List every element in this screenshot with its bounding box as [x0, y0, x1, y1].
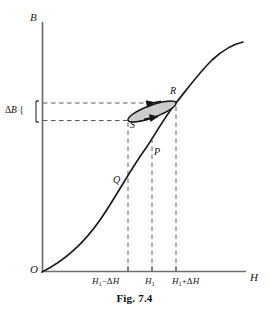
y-axis-label: B	[30, 12, 37, 23]
x-axis-label: H	[250, 272, 258, 283]
magnetization-curve	[42, 42, 243, 272]
x-tick-label-h1-plus-dh: H1+ΔH	[172, 277, 199, 286]
x-tick-label-h1-minus-dh: H1−ΔH	[92, 277, 119, 286]
delta-b-bracket	[36, 101, 39, 122]
dashed-guides	[43, 103, 176, 271]
figure-caption: Fig. 7.4	[0, 292, 269, 304]
point-label-s: S	[130, 120, 135, 130]
point-label-p: P	[154, 147, 160, 157]
delta-b-axis-label: ΔB {	[5, 106, 24, 116]
bh-curve-figure	[0, 0, 269, 318]
point-label-r: R	[170, 86, 176, 96]
origin-label: O	[30, 264, 38, 275]
figure-container: B H O ΔB { H1−ΔH H1 H1+ΔH R S P Q Fig. 7…	[0, 0, 269, 318]
point-label-q: Q	[113, 175, 120, 185]
x-tick-label-h1: H1	[145, 277, 155, 286]
axis-group	[42, 22, 246, 272]
